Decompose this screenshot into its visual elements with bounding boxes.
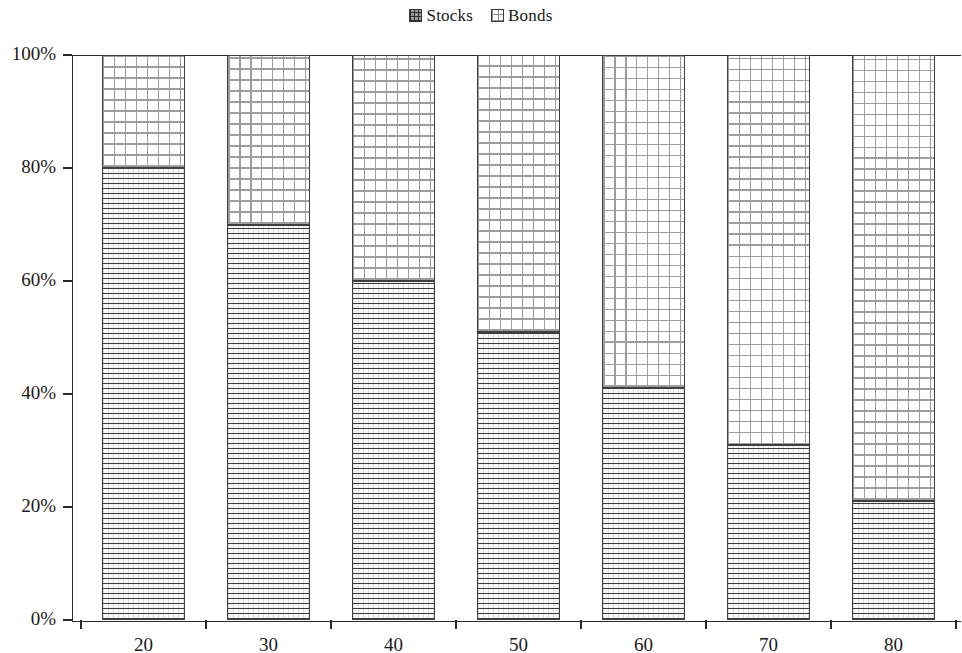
y-axis-tick-label: 100% — [12, 43, 56, 65]
bar-segment-stocks[interactable] — [102, 168, 185, 620]
bar-segment-bonds[interactable] — [602, 55, 685, 388]
legend-entry-bonds[interactable]: Bonds — [491, 7, 552, 24]
bar-group[interactable] — [477, 55, 560, 620]
bar-segment-stocks[interactable] — [227, 225, 310, 621]
bar-segment-bonds[interactable] — [352, 55, 435, 281]
y-axis-tick-label: 80% — [21, 156, 56, 178]
x-axis-tick-label: 60 — [634, 634, 653, 653]
bar-group[interactable] — [727, 55, 810, 620]
chart-legend: Stocks Bonds — [0, 2, 962, 28]
bar-segment-stocks[interactable] — [852, 501, 935, 620]
x-axis-tick-label: 70 — [759, 634, 778, 653]
x-axis-tick-mark — [955, 620, 956, 629]
bar-segment-stocks[interactable] — [352, 281, 435, 620]
y-axis-tick-mark — [63, 54, 72, 56]
stacked-bar-chart: Stocks Bonds 0%20%40%60%80%100% 20304050… — [0, 0, 962, 653]
y-axis-tick-mark — [63, 619, 72, 621]
x-axis-tick-label: 30 — [259, 634, 278, 653]
bar-segment-stocks[interactable] — [602, 388, 685, 620]
y-axis-tick-label: 60% — [21, 269, 56, 291]
y-axis-tick-mark — [63, 280, 72, 282]
y-axis-tick-mark — [63, 393, 72, 395]
bar-group[interactable] — [602, 55, 685, 620]
bar-segment-stocks[interactable] — [477, 332, 560, 620]
legend-label-bonds: Bonds — [508, 7, 552, 24]
legend-entry-stocks[interactable]: Stocks — [409, 7, 473, 24]
bar-segment-bonds[interactable] — [227, 55, 310, 225]
x-axis-tick-mark — [205, 620, 206, 629]
bar-segment-stocks[interactable] — [727, 445, 810, 620]
light-grid-swatch-icon — [491, 9, 504, 22]
bar-segment-bonds[interactable] — [852, 55, 935, 501]
y-axis-tick-label: 40% — [21, 382, 56, 404]
y-axis-tick-label: 20% — [21, 495, 56, 517]
x-axis-tick-mark — [455, 620, 456, 629]
x-axis-tick-label: 20 — [134, 634, 153, 653]
bar-segment-bonds[interactable] — [477, 55, 560, 332]
x-axis-tick-mark — [705, 620, 706, 629]
x-axis-tick-mark — [80, 620, 81, 629]
bar-segment-bonds[interactable] — [727, 55, 810, 445]
x-axis-tick-label: 50 — [509, 634, 528, 653]
x-axis-tick-mark — [580, 620, 581, 629]
bar-segment-bonds[interactable] — [102, 55, 185, 168]
y-axis-tick-label: 0% — [31, 608, 56, 630]
x-axis-tick-mark — [330, 620, 331, 629]
dark-grid-swatch-icon — [409, 9, 422, 22]
x-axis-tick-label: 80 — [884, 634, 903, 653]
bar-group[interactable] — [852, 55, 935, 620]
y-axis-tick-mark — [63, 167, 72, 169]
x-axis-tick-label: 40 — [384, 634, 403, 653]
x-axis-tick-mark — [830, 620, 831, 629]
bar-group[interactable] — [227, 55, 310, 620]
bar-group[interactable] — [102, 55, 185, 620]
bar-group[interactable] — [352, 55, 435, 620]
y-axis-tick-mark — [63, 506, 72, 508]
legend-label-stocks: Stocks — [426, 7, 473, 24]
